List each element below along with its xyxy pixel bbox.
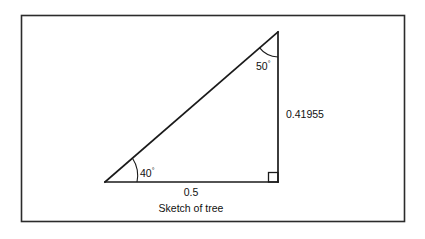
angle-label-50-value: 50 bbox=[256, 60, 268, 72]
figure-border bbox=[22, 16, 405, 222]
angle-label-50-degree-symbol: ° bbox=[268, 60, 271, 67]
side-label-height: 0.41955 bbox=[286, 108, 324, 120]
tree-sketch-diagram: 40° 50° 0.5 0.41955 Sketch of tree bbox=[0, 0, 425, 239]
angle-label-40-degree-symbol: ° bbox=[152, 167, 155, 174]
angle-label-40-value: 40 bbox=[140, 167, 152, 179]
side-label-base: 0.5 bbox=[184, 186, 199, 198]
figure-container: 40° 50° 0.5 0.41955 Sketch of tree bbox=[0, 0, 425, 239]
figure-caption: Sketch of tree bbox=[159, 202, 224, 214]
